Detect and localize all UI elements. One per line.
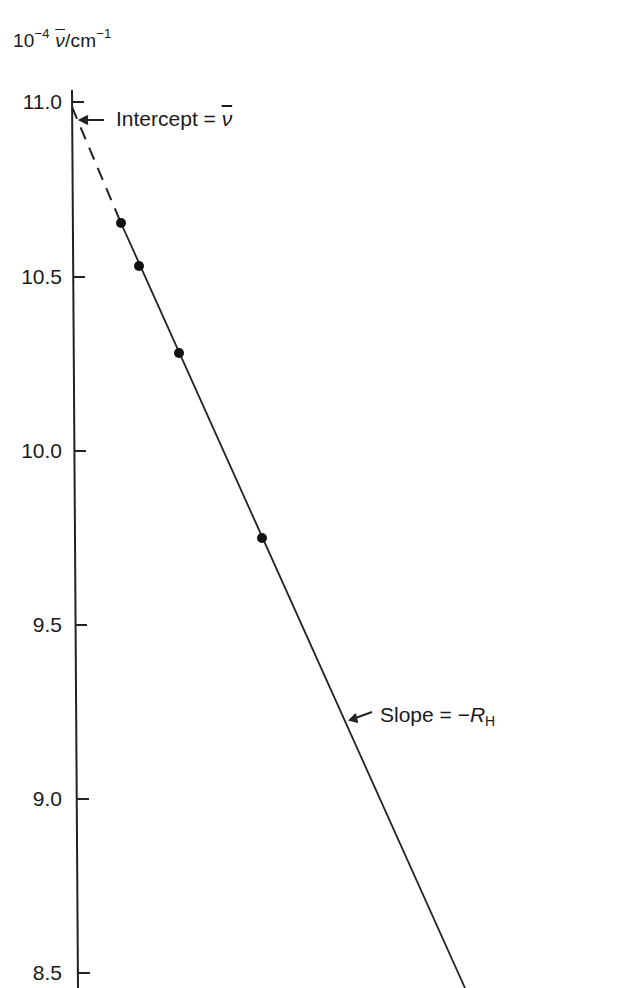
data-point — [257, 533, 267, 543]
y-tick-label: 9.5 — [0, 613, 62, 637]
fit-line — [121, 223, 465, 988]
y-tick-label: 9.0 — [0, 787, 62, 811]
extrapolation-dashed-line — [72, 107, 121, 223]
slope-arrow-icon — [350, 712, 372, 722]
data-point — [116, 218, 126, 228]
y-axis-label: 10−4 ν/cm−1 — [13, 28, 111, 52]
data-point — [134, 261, 144, 271]
y-tick-label: 8.5 — [0, 961, 62, 985]
y-tick-label: 11.0 — [0, 90, 62, 114]
slope-annotation: Slope = −RH — [380, 703, 495, 729]
y-tick-label: 10.5 — [0, 265, 62, 289]
plot-area — [0, 0, 641, 988]
y-axis — [72, 90, 78, 988]
data-point — [174, 348, 184, 358]
intercept-annotation: Intercept = ν — [116, 107, 232, 131]
intercept-arrow-icon — [80, 116, 104, 124]
y-tick-label: 10.0 — [0, 439, 62, 463]
